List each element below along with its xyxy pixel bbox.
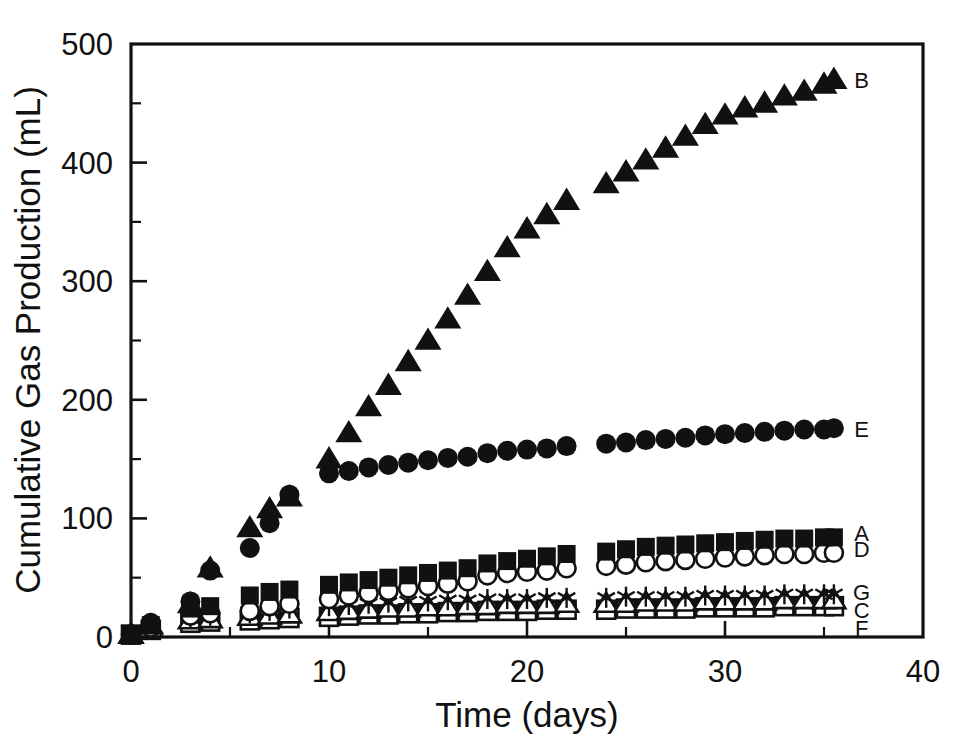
data-point-D bbox=[795, 545, 813, 563]
y-axis-title: Cumulative Gas Production (mL) bbox=[8, 86, 47, 594]
data-point-A bbox=[340, 573, 358, 591]
data-point-B bbox=[414, 328, 441, 350]
y-axis-tick-label: 500 bbox=[61, 27, 113, 62]
data-point-A bbox=[379, 569, 397, 587]
data-point-D bbox=[736, 547, 754, 565]
data-point-A bbox=[241, 586, 259, 604]
data-point-A bbox=[419, 564, 437, 582]
data-point-B bbox=[771, 83, 798, 105]
series-A bbox=[122, 528, 843, 643]
data-point-E bbox=[596, 434, 616, 454]
data-point-E bbox=[755, 422, 775, 442]
data-point-D bbox=[241, 602, 259, 620]
data-point-A bbox=[399, 566, 417, 584]
data-point-A bbox=[795, 530, 813, 548]
data-point-D bbox=[696, 550, 714, 568]
data-point-B bbox=[355, 394, 382, 416]
series-label-B: B bbox=[854, 68, 869, 93]
data-point-A bbox=[360, 571, 378, 589]
data-point-A bbox=[478, 554, 496, 572]
data-point-D bbox=[775, 545, 793, 563]
data-point-B bbox=[315, 446, 342, 468]
data-point-A bbox=[261, 583, 279, 601]
data-point-A bbox=[657, 537, 675, 555]
data-point-D bbox=[617, 556, 635, 574]
data-point-E bbox=[656, 429, 676, 449]
data-point-B bbox=[553, 188, 580, 210]
x-axis-tick-label: 30 bbox=[708, 654, 742, 689]
data-point-E bbox=[636, 430, 656, 450]
data-point-B bbox=[731, 95, 758, 117]
data-point-D bbox=[637, 553, 655, 571]
data-point-E bbox=[557, 436, 577, 456]
data-point-A bbox=[825, 528, 843, 546]
data-point-E bbox=[458, 447, 478, 467]
data-point-E bbox=[497, 441, 517, 461]
data-point-E bbox=[339, 461, 359, 481]
data-point-E bbox=[774, 421, 794, 441]
data-point-D bbox=[716, 549, 734, 567]
data-point-E bbox=[438, 448, 458, 468]
data-point-A bbox=[459, 559, 477, 577]
data-point-E bbox=[418, 450, 438, 470]
data-point-A bbox=[775, 530, 793, 548]
series-label-F: F bbox=[855, 616, 868, 641]
y-axis-tick-label: 100 bbox=[61, 501, 113, 536]
data-point-A bbox=[280, 581, 298, 599]
data-point-A bbox=[201, 597, 219, 615]
data-point-A bbox=[617, 540, 635, 558]
data-point-B bbox=[593, 171, 620, 193]
data-point-E bbox=[359, 457, 379, 477]
data-point-D bbox=[657, 552, 675, 570]
y-axis-tick-label: 400 bbox=[61, 146, 113, 181]
x-axis-title: Time (days) bbox=[435, 695, 618, 734]
data-point-A bbox=[696, 534, 714, 552]
data-point-B bbox=[672, 124, 699, 146]
x-axis-tick-label-group: 010203040 bbox=[122, 654, 940, 689]
data-point-E bbox=[695, 425, 715, 445]
data-point-A bbox=[320, 576, 338, 594]
data-point-A bbox=[736, 532, 754, 550]
data-point-B bbox=[335, 420, 362, 442]
data-point-E bbox=[398, 453, 418, 473]
data-point-A bbox=[538, 547, 556, 565]
data-point-B bbox=[454, 282, 481, 304]
data-point-B bbox=[632, 147, 659, 169]
data-point-E bbox=[537, 438, 557, 458]
data-point-B bbox=[197, 555, 224, 577]
data-point-D bbox=[756, 546, 774, 564]
x-axis-tick-label: 10 bbox=[312, 654, 346, 689]
y-axis-tick-label-group: 0100200300400500 bbox=[61, 27, 113, 655]
data-point-B bbox=[652, 135, 679, 157]
data-point-A bbox=[756, 531, 774, 549]
figure-container: 0100200300400500 010203040 BEADGCF Time … bbox=[0, 0, 971, 749]
x-axis-tick-label: 0 bbox=[122, 654, 139, 689]
data-point-D bbox=[676, 551, 694, 569]
data-point-E bbox=[477, 443, 497, 463]
data-point-D bbox=[825, 544, 843, 562]
series-label-D: D bbox=[854, 537, 870, 562]
data-point-E bbox=[715, 424, 735, 444]
data-point-E bbox=[616, 432, 636, 452]
y-axis-tick-label: 200 bbox=[61, 383, 113, 418]
data-point-E bbox=[735, 423, 755, 443]
data-point-E bbox=[794, 419, 814, 439]
series-label-E: E bbox=[854, 417, 869, 442]
data-point-E bbox=[378, 455, 398, 475]
y-axis-tick-label: 300 bbox=[61, 264, 113, 299]
x-axis-tick-label: 40 bbox=[906, 654, 940, 689]
data-point-A bbox=[676, 535, 694, 553]
series-inline-label-group: BEADGCF bbox=[853, 68, 870, 641]
data-point-A bbox=[716, 533, 734, 551]
y-axis-tick-group bbox=[131, 103, 147, 577]
data-point-A bbox=[439, 562, 457, 580]
data-point-B bbox=[612, 159, 639, 181]
data-point-A bbox=[597, 543, 615, 561]
data-point-A bbox=[637, 538, 655, 556]
y-axis-tick-label: 0 bbox=[96, 620, 113, 655]
data-point-E bbox=[675, 428, 695, 448]
data-point-A bbox=[498, 552, 516, 570]
data-point-E bbox=[240, 538, 260, 558]
data-point-E bbox=[517, 440, 537, 460]
data-point-A bbox=[518, 550, 536, 568]
